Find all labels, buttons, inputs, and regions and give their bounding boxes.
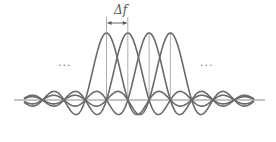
subcarrier-curve-4 xyxy=(24,33,254,115)
sinc-spectrum-plot xyxy=(0,0,276,142)
ellipsis-left: ... xyxy=(58,56,72,69)
peak-markers xyxy=(107,33,171,100)
subcarrier-curves xyxy=(24,33,254,115)
arrow-left-icon xyxy=(108,21,112,25)
spacing-indicator xyxy=(107,17,128,33)
ellipsis-right: ... xyxy=(200,56,214,69)
delta-f-label: Δf xyxy=(114,3,127,17)
arrow-right-icon xyxy=(123,21,127,25)
